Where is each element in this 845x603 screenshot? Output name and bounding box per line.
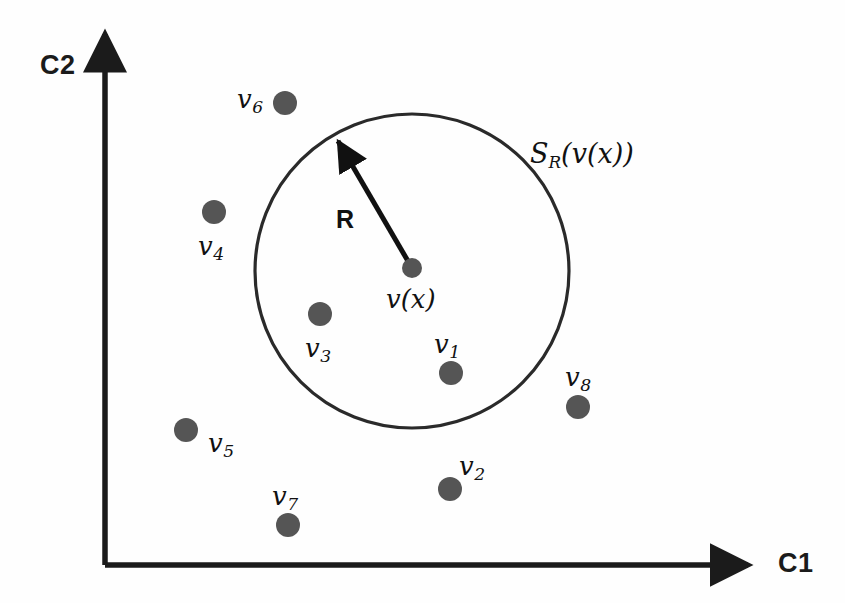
node-label-v5: v5	[208, 430, 234, 456]
node-label-v6: v6	[237, 86, 263, 112]
node-dot-v3	[308, 302, 332, 326]
node-label-v2: v2	[459, 453, 485, 479]
node-label-v1: v1	[434, 331, 460, 357]
node-label-v4-base: v	[198, 231, 213, 261]
node-dot-v4	[202, 200, 226, 224]
node-label-v5-sub: 5	[223, 441, 234, 461]
node-label-v8-base: v	[565, 362, 580, 392]
node-label-v7-base: v	[272, 481, 287, 511]
node-label-v6-base: v	[237, 84, 252, 114]
node-label-v3-base: v	[305, 333, 320, 363]
node-label-v1-base: v	[434, 329, 449, 359]
node-dot-v5	[174, 418, 198, 442]
node-label-v8-sub: 8	[580, 375, 591, 395]
radius-label: R	[336, 205, 354, 234]
node-label-v4: v4	[198, 233, 224, 259]
sphere-label-arg: (v(x))	[561, 138, 634, 169]
node-dot-v6	[273, 91, 297, 115]
node-label-v3-sub: 3	[320, 346, 331, 366]
node-label-v7: v7	[272, 483, 298, 509]
node-dot-v1	[439, 361, 463, 385]
sphere-label: SR(v(x))	[530, 140, 634, 167]
center-node-label: v(x)	[386, 284, 436, 314]
diagram-canvas: C2 C1 SR(v(x)) R v(x) v6 v4 v3 v1 v8 v5 …	[0, 0, 845, 603]
sphere-label-subscript: R	[549, 152, 562, 172]
node-dot-v7	[276, 513, 300, 537]
node-label-v7-sub: 7	[287, 494, 298, 514]
x-axis-label: C1	[778, 548, 814, 579]
sphere-label-s: S	[530, 138, 549, 169]
node-label-v2-sub: 2	[474, 464, 485, 484]
node-dot-v8	[566, 395, 590, 419]
node-dots	[174, 91, 590, 537]
node-label-v6-sub: 6	[252, 97, 263, 117]
node-dot-center	[402, 258, 422, 278]
y-axis-label: C2	[40, 50, 76, 81]
node-label-v3: v3	[305, 335, 331, 361]
node-label-v1-sub: 1	[449, 342, 460, 362]
node-label-v2-base: v	[459, 451, 474, 481]
node-label-v8: v8	[565, 364, 591, 390]
node-label-v5-base: v	[208, 428, 223, 458]
node-label-v4-sub: 4	[213, 244, 224, 264]
